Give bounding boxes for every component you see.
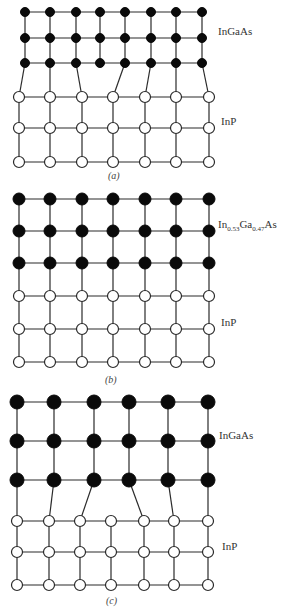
ingaas-atom [76, 225, 88, 237]
inp-atom [75, 580, 86, 591]
inp-atom [45, 123, 56, 134]
ingaas-atom [87, 434, 101, 448]
panel-b-ingaas-composition-label: In0.53Ga0.47As [218, 218, 277, 233]
ingaas-atom [46, 34, 55, 43]
inp-atom [204, 357, 215, 368]
inp-atom [45, 357, 56, 368]
ingaas-atom [46, 8, 55, 17]
inp-atom [14, 324, 25, 335]
ingaas-atom [170, 257, 182, 269]
lattice-diagram [0, 0, 289, 612]
inp-atom [140, 92, 151, 103]
ingaas-atom [21, 8, 30, 17]
inp-atom [108, 92, 119, 103]
atoms [13, 193, 215, 368]
ingaas-atom [13, 257, 25, 269]
inp-atom [44, 547, 55, 558]
inp-atom [169, 547, 180, 558]
inp-atom [77, 324, 88, 335]
inp-atom [108, 291, 119, 302]
inp-atom [45, 157, 56, 168]
ingaas-atom [107, 257, 119, 269]
inp-atom [108, 157, 119, 168]
ingaas-atom [121, 34, 130, 43]
ingaas-atom [161, 434, 175, 448]
inp-atom [44, 516, 55, 527]
panel-a-caption: (a) [108, 170, 120, 181]
ingaas-atom [47, 395, 61, 409]
panel-a-ingaas-label: InGaAs [218, 25, 252, 37]
ingaas-atom [161, 395, 175, 409]
ingaas-atom [13, 225, 25, 237]
inp-atom [171, 291, 182, 302]
inp-atom [140, 157, 151, 168]
panel-c-inp-label: InP [222, 540, 237, 552]
inp-atom [204, 324, 215, 335]
inp-atom [108, 123, 119, 134]
ingaas-atom [47, 473, 61, 487]
inp-atom [171, 92, 182, 103]
inp-atom [106, 547, 117, 558]
inp-atom [169, 580, 180, 591]
ingaas-atom [170, 193, 182, 205]
label-sub-ga: 0.47 [252, 225, 264, 233]
ingaas-atom [10, 473, 24, 487]
ingaas-atom [21, 59, 30, 68]
inp-atom [139, 516, 150, 527]
ingaas-atom [107, 193, 119, 205]
ingaas-atom [147, 34, 156, 43]
ingaas-atom [122, 434, 136, 448]
bonds [19, 199, 209, 362]
inp-atom [77, 157, 88, 168]
panel-a-inp-label: InP [221, 115, 236, 127]
ingaas-atom [122, 395, 136, 409]
inp-atom [204, 92, 215, 103]
ingaas-atom [172, 34, 181, 43]
ingaas-atom [201, 473, 215, 487]
inp-atom [171, 157, 182, 168]
inp-atom [108, 357, 119, 368]
ingaas-atom [44, 257, 56, 269]
panel-c-lattice-mismatch-larger [10, 395, 215, 591]
ingaas-atom [44, 193, 56, 205]
ingaas-atom [96, 34, 105, 43]
panel-b-lattice-matched [13, 193, 215, 368]
ingaas-atom [198, 8, 207, 17]
ingaas-atom [76, 193, 88, 205]
ingaas-atom [121, 8, 130, 17]
inp-atom [45, 324, 56, 335]
panel-b-inp-label: InP [221, 316, 236, 328]
ingaas-atom [122, 473, 136, 487]
atoms [14, 8, 215, 168]
inp-atom [45, 291, 56, 302]
inp-atom [14, 92, 25, 103]
inp-atom [108, 324, 119, 335]
ingaas-atom [87, 473, 101, 487]
inp-atom [77, 291, 88, 302]
ingaas-atom [198, 34, 207, 43]
ingaas-atom [96, 59, 105, 68]
inp-atom [203, 516, 214, 527]
ingaas-atom [201, 395, 215, 409]
inp-atom [204, 157, 215, 168]
inp-atom [140, 324, 151, 335]
inp-atom [14, 357, 25, 368]
ingaas-atom [203, 257, 215, 269]
inp-atom [139, 547, 150, 558]
label-element-ga: Ga [239, 218, 252, 230]
ingaas-atom [139, 257, 151, 269]
inp-atom [204, 291, 215, 302]
inp-atom [12, 516, 23, 527]
label-sub-in: 0.53 [227, 225, 239, 233]
inp-atom [14, 123, 25, 134]
ingaas-atom [72, 34, 81, 43]
ingaas-atom [147, 8, 156, 17]
ingaas-atom [172, 59, 181, 68]
ingaas-atom [10, 434, 24, 448]
ingaas-atom [139, 225, 151, 237]
ingaas-atom [198, 59, 207, 68]
inp-atom [140, 291, 151, 302]
inp-atom [44, 580, 55, 591]
ingaas-atom [72, 8, 81, 17]
ingaas-atom [139, 193, 151, 205]
